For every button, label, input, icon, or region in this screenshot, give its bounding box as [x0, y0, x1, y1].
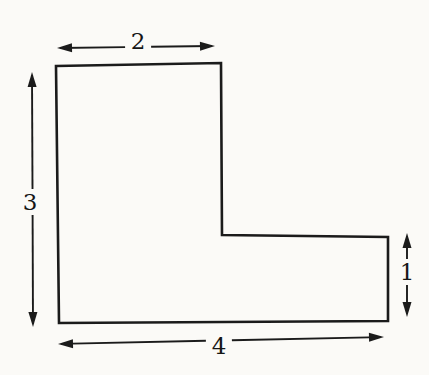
arrowhead-bottom	[369, 333, 384, 342]
dimension-line-left	[32, 75, 33, 189]
l-shape-outline	[56, 63, 388, 323]
arrowhead-top	[57, 43, 72, 52]
arrowhead-left	[28, 312, 37, 327]
arrowhead-right	[403, 302, 412, 317]
arrowhead-left	[28, 72, 37, 87]
dimension-label-left: 3	[23, 191, 38, 214]
arrowhead-top	[200, 42, 215, 51]
figure-canvas: 2 3 1 4	[0, 0, 429, 375]
dimension-line-bottom	[61, 341, 206, 344]
l-shape-diagram-svg	[0, 0, 429, 375]
dimension-line-bottom	[232, 337, 381, 340]
dimension-label-bottom: 4	[212, 335, 227, 358]
arrowhead-right	[403, 233, 412, 248]
dimension-label-top: 2	[131, 30, 146, 53]
dimension-label-right: 1	[400, 261, 415, 284]
arrowhead-bottom	[58, 339, 73, 348]
